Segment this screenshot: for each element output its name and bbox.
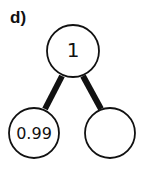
tree-diagram: 10.99: [0, 0, 143, 170]
tree-edge-root-right: [83, 76, 101, 109]
tree-node-left: 0.99: [9, 108, 59, 158]
node-label: 1: [67, 38, 80, 62]
tree-node-right: [85, 108, 135, 158]
tree-edge-root-left: [45, 76, 62, 109]
tree-node-root: 1: [47, 25, 99, 77]
node-label: 0.99: [16, 124, 52, 143]
node-circle: [85, 108, 135, 158]
tree-diagram-panel: d) 10.99: [0, 0, 143, 170]
